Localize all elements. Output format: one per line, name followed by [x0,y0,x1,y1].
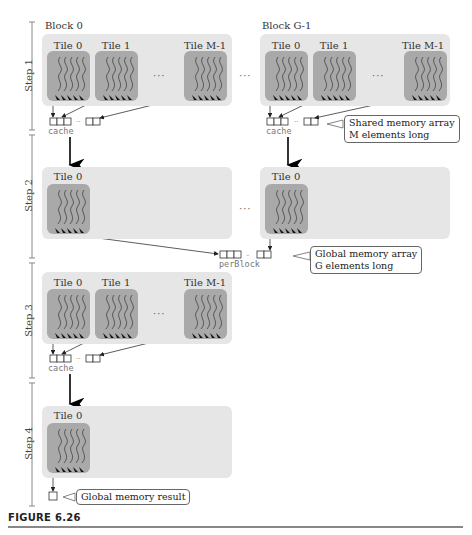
tile [47,289,90,339]
tile-ellipsis: ··· [372,70,385,81]
cache-label: cache [48,363,74,373]
tile [95,51,138,101]
figure-caption: FIGURE 6.26 [8,512,81,523]
tile-label: Tile 0 [46,410,90,421]
callout-line: Global memory array [315,248,417,260]
block-g1-label: Block G-1 [262,20,311,31]
tile-label: Tile 0 [46,277,90,288]
block-0-label: Block 0 [45,20,83,31]
svg-text:··: ·· [294,118,298,126]
perblock-label: perBlock [219,259,260,269]
cache-label: cache [266,126,292,136]
callout-line: G elements long [315,260,417,272]
cache-label: cache [48,126,74,136]
tile [265,184,308,234]
svg-text:–: – [246,251,250,259]
tile [265,51,308,101]
tile-label: Tile 1 [94,40,138,51]
tile-label: Tile M-1 [180,40,230,51]
tile [184,289,227,339]
tile-label: Tile 1 [312,40,356,51]
step-1-label: Step 1 [23,59,34,92]
tile-label: Tile 0 [264,171,308,182]
tile-label: Tile M-1 [180,277,230,288]
tile [184,51,227,101]
svg-text:··: ·· [76,355,80,363]
tile [47,423,90,473]
global-result-callout: Global memory result [76,489,190,505]
shared-memory-callout: Shared memory array M elements long [344,115,460,143]
tile [47,184,90,234]
callout-line: M elements long [349,129,455,141]
tile-label: Tile 0 [46,40,90,51]
tile [404,51,447,101]
step-4-label: Step 4 [23,427,34,460]
callout-line: Shared memory array [349,117,455,129]
step1-block-ellipsis: ··· [239,70,252,81]
svg-text:··: ·· [76,118,80,126]
tile-label: Tile M-1 [398,40,448,51]
global-memory-callout: Global memory array G elements long [310,246,422,274]
step-2-label: Step 2 [23,179,34,212]
step2-block-ellipsis: ··· [239,203,252,214]
tile [313,51,356,101]
tile-label: Tile 1 [94,277,138,288]
tile-ellipsis: ··· [153,70,166,81]
tile-label: Tile 0 [46,171,90,182]
step-3-label: Step 3 [23,304,34,337]
tile [47,51,90,101]
tile [95,289,138,339]
tile-label: Tile 0 [264,40,308,51]
caption-rule [8,526,463,528]
tile-ellipsis: ··· [153,308,166,319]
